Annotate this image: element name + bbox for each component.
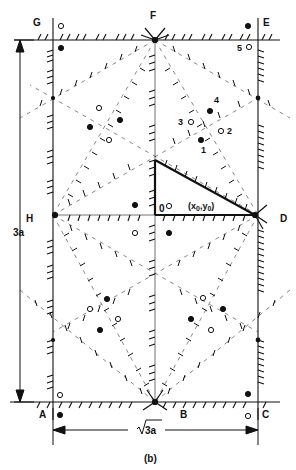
dimension-vertical-label: 3a: [13, 227, 25, 238]
open-point: [208, 327, 213, 332]
filled-point: [188, 316, 193, 321]
open-point: [200, 295, 205, 300]
filled-point: [97, 327, 102, 332]
label-2: 2: [227, 126, 232, 136]
label-g: G: [33, 17, 41, 28]
open-point: [166, 203, 171, 208]
filled-point: [57, 412, 62, 417]
open-point: [87, 306, 92, 311]
filled-point: [198, 137, 203, 142]
figure-caption: (b): [144, 453, 157, 464]
filled-point: [87, 124, 92, 129]
label-h: H: [26, 213, 33, 224]
label-f: F: [150, 10, 156, 21]
label-c: C: [262, 409, 269, 420]
filled-point: [104, 296, 109, 301]
filled-point: [117, 117, 122, 122]
filled-point: [245, 23, 250, 28]
open-point: [106, 137, 111, 142]
point-coordinate-label: (x0,y0): [188, 201, 214, 212]
hatch-marks: [37, 34, 272, 408]
open-point: [245, 413, 250, 418]
filled-point: [166, 230, 171, 235]
label-4: 4: [214, 95, 219, 105]
mirror-symmetry-diagram: G F E H D A B C 0 1 2 3 4 5 (x0,y0) 3a 3…: [0, 0, 296, 470]
filled-point: [220, 306, 225, 311]
label-b: B: [180, 409, 187, 420]
open-point: [58, 23, 63, 28]
label-d: D: [280, 213, 287, 224]
open-point: [96, 105, 101, 110]
label-e: E: [263, 17, 270, 28]
open-point: [57, 392, 62, 397]
label-origin: 0: [159, 203, 165, 214]
open-point: [246, 44, 251, 49]
label-1: 1: [201, 145, 206, 155]
motif-points: [57, 23, 251, 418]
open-point: [218, 128, 223, 133]
filled-point: [207, 108, 212, 113]
dimension-horizontal-label: 3a: [145, 425, 157, 436]
open-point: [188, 119, 193, 124]
label-a: A: [39, 409, 46, 420]
mirror-lines: [14, 18, 290, 420]
open-point: [115, 316, 120, 321]
label-5: 5: [237, 43, 242, 53]
label-3: 3: [178, 117, 183, 127]
filled-point: [245, 391, 250, 396]
filled-point: [132, 202, 137, 207]
filled-point: [58, 45, 63, 50]
open-point: [132, 230, 137, 235]
